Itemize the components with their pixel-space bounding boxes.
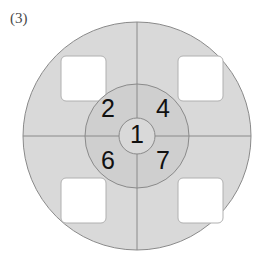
quadrant-value-top-right: 4 <box>150 96 176 121</box>
square-top-right <box>178 56 223 101</box>
quadrant-value-bottom-left: 6 <box>95 148 121 173</box>
square-top-left <box>61 56 106 101</box>
center-value: 1 <box>124 122 150 147</box>
figure-page: (3) 2 4 6 7 1 <box>0 0 269 264</box>
square-bottom-left <box>61 178 106 223</box>
square-bottom-right <box>178 178 223 223</box>
quadrant-value-bottom-right: 7 <box>150 148 176 173</box>
quadrant-value-top-left: 2 <box>95 96 121 121</box>
